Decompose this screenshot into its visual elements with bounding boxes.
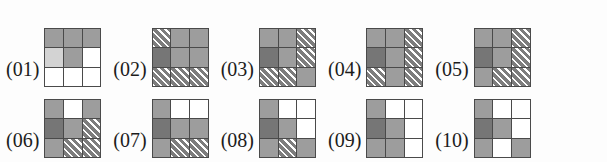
grid-cell-r2c1 xyxy=(45,119,63,137)
grid-item-07: (07) xyxy=(113,87,208,158)
grid-cell-r1c3 xyxy=(512,29,530,47)
grid-cell-r2c2 xyxy=(279,119,297,137)
grid-cell-r2c3 xyxy=(512,119,530,137)
grid-cell-r3c2 xyxy=(64,139,82,157)
grid-cell-r3c3 xyxy=(83,68,101,86)
pattern-grid xyxy=(474,99,531,158)
grid-cell-r1c2 xyxy=(171,100,189,118)
grid-cell-r1c1 xyxy=(153,100,171,118)
grid-cell-r2c3 xyxy=(190,119,208,137)
grid-cell-r1c3 xyxy=(512,100,530,118)
grid-cell-r3c1 xyxy=(475,139,493,157)
grid-cell-r2c2 xyxy=(386,119,404,137)
grid-cell-r2c2 xyxy=(64,48,82,66)
grid-cell-r1c2 xyxy=(171,29,189,47)
grid-cell-r2c1 xyxy=(260,119,278,137)
grid-item-10: (10) xyxy=(435,87,530,158)
grid-cell-r1c2 xyxy=(493,29,511,47)
grid-item-label: (03) xyxy=(221,59,259,87)
grid-cell-r2c1 xyxy=(367,119,385,137)
grid-item-02: (02) xyxy=(113,16,208,87)
pattern-grid xyxy=(152,28,209,87)
grid-item-label: (05) xyxy=(435,59,473,87)
grid-cell-r1c1 xyxy=(45,100,63,118)
grid-item-label: (04) xyxy=(328,59,366,87)
pattern-grid xyxy=(44,28,101,87)
grid-cell-r3c3 xyxy=(297,139,315,157)
grid-cell-r3c3 xyxy=(297,68,315,86)
grid-cell-r1c3 xyxy=(297,29,315,47)
grid-cell-r1c2 xyxy=(64,29,82,47)
grid-cell-r1c1 xyxy=(475,100,493,118)
grid-cell-r1c1 xyxy=(45,29,63,47)
grid-cell-r2c3 xyxy=(405,119,423,137)
grid-cell-r2c3 xyxy=(190,48,208,66)
grid-cell-r3c3 xyxy=(512,68,530,86)
grid-cell-r2c2 xyxy=(171,48,189,66)
pattern-grid xyxy=(474,28,531,87)
grid-cell-r2c2 xyxy=(493,119,511,137)
grid-cell-r3c1 xyxy=(367,68,385,86)
pattern-grid xyxy=(259,28,316,87)
grid-cell-r3c3 xyxy=(405,68,423,86)
grid-cell-r3c2 xyxy=(279,68,297,86)
grid-cell-r3c2 xyxy=(171,68,189,86)
grid-item-06: (06) xyxy=(6,87,101,158)
grid-cell-r2c1 xyxy=(367,48,385,66)
grid-cell-r3c1 xyxy=(153,139,171,157)
grid-item-label: (10) xyxy=(435,130,473,158)
grid-item-label: (08) xyxy=(221,130,259,158)
pattern-grid xyxy=(366,99,423,158)
grid-cell-r1c3 xyxy=(405,100,423,118)
grid-cell-r2c2 xyxy=(64,119,82,137)
grid-cell-r3c1 xyxy=(153,68,171,86)
grid-item-label: (06) xyxy=(6,130,44,158)
grid-item-01: (01) xyxy=(6,16,101,87)
figure-row-top: (01)(02)(03)(04)(05) xyxy=(0,16,607,89)
grid-cell-r3c3 xyxy=(190,139,208,157)
grid-cell-r2c1 xyxy=(475,48,493,66)
grid-item-03: (03) xyxy=(221,16,316,87)
grid-cell-r3c2 xyxy=(279,139,297,157)
grid-cell-r1c1 xyxy=(475,29,493,47)
grid-cell-r1c2 xyxy=(279,100,297,118)
grid-cell-r1c2 xyxy=(64,100,82,118)
grid-cell-r3c1 xyxy=(475,68,493,86)
grid-cell-r3c3 xyxy=(512,139,530,157)
grid-cell-r2c2 xyxy=(171,119,189,137)
grid-cell-r1c2 xyxy=(386,100,404,118)
grid-cell-r2c3 xyxy=(83,119,101,137)
grid-cell-r3c2 xyxy=(64,68,82,86)
grid-cell-r3c3 xyxy=(405,139,423,157)
grid-cell-r1c2 xyxy=(279,29,297,47)
grid-cell-r3c1 xyxy=(260,139,278,157)
grid-cell-r2c1 xyxy=(153,48,171,66)
grid-cell-r2c2 xyxy=(493,48,511,66)
grid-item-label: (09) xyxy=(328,130,366,158)
grid-cell-r2c2 xyxy=(279,48,297,66)
grid-cell-r1c3 xyxy=(190,100,208,118)
grid-item-08: (08) xyxy=(221,87,316,158)
grid-cell-r3c2 xyxy=(171,139,189,157)
grid-cell-r2c2 xyxy=(386,48,404,66)
grid-cell-r1c3 xyxy=(190,29,208,47)
figure-grid-sequence: (01)(02)(03)(04)(05) (06)(07)(08)(09)(10… xyxy=(0,0,607,162)
grid-cell-r1c1 xyxy=(260,29,278,47)
grid-item-label: (07) xyxy=(113,130,151,158)
figure-row-bottom: (06)(07)(08)(09)(10) xyxy=(0,87,607,160)
grid-cell-r2c3 xyxy=(297,48,315,66)
grid-item-09: (09) xyxy=(328,87,423,158)
pattern-grid xyxy=(259,99,316,158)
grid-cell-r2c3 xyxy=(512,48,530,66)
grid-cell-r2c3 xyxy=(297,119,315,137)
grid-cell-r1c3 xyxy=(83,100,101,118)
grid-cell-r1c3 xyxy=(405,29,423,47)
grid-cell-r2c1 xyxy=(475,119,493,137)
grid-cell-r2c3 xyxy=(405,48,423,66)
grid-cell-r1c2 xyxy=(493,100,511,118)
grid-cell-r2c1 xyxy=(153,119,171,137)
grid-cell-r1c3 xyxy=(83,29,101,47)
grid-cell-r3c1 xyxy=(260,68,278,86)
grid-cell-r1c3 xyxy=(297,100,315,118)
pattern-grid xyxy=(44,99,101,158)
